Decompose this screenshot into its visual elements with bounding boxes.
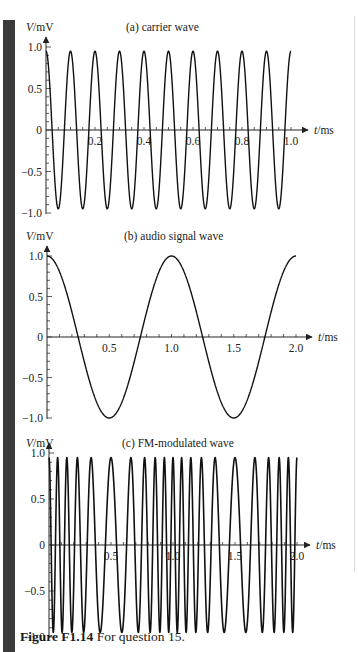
x-tick-label: 0.4 — [137, 135, 152, 147]
x-tick-label: 0.5 — [102, 342, 117, 354]
figure-number: Figure F1.14 — [20, 629, 93, 644]
x-axis-label: t/ms — [314, 124, 334, 136]
figure-plots: (a) carrier waveV/mVt/ms1.00.50−0.5−1.00… — [0, 0, 358, 652]
y-tick-label: −1.0 — [22, 412, 43, 424]
y-tick-label: 1.0 — [28, 41, 43, 53]
chart-title: (a) carrier wave — [126, 21, 199, 34]
chart-carrier-wave: (a) carrier waveV/mVt/ms1.00.50−0.5−1.00… — [21, 21, 334, 219]
y-tick-label: 0 — [39, 539, 45, 551]
chart-title: (b) audio signal wave — [124, 230, 223, 243]
y-tick-label: −0.5 — [22, 372, 43, 384]
x-tick-label: 0.2 — [88, 135, 103, 147]
x-tick-label: 1.5 — [227, 342, 242, 354]
y-tick-label: −0.5 — [21, 166, 42, 178]
y-tick-label: 0 — [37, 331, 43, 343]
y-tick-label: 1.0 — [31, 447, 46, 459]
chart-fm-modulated-wave: (c) FM-modulated waveV/mVt/ms1.00.50−0.5… — [24, 437, 336, 643]
y-tick-label: 0.5 — [29, 291, 44, 303]
x-tick-label: 0.8 — [235, 135, 250, 147]
y-tick-label: 1.0 — [29, 250, 44, 262]
x-tick-label: 1.0 — [164, 342, 179, 354]
x-axis-label: t/ms — [318, 331, 338, 343]
figure-caption: Figure F1.14 For question 15. — [20, 629, 185, 645]
x-tick-label: 0.6 — [186, 135, 201, 147]
y-tick-label: 0.5 — [28, 83, 43, 95]
y-tick-label: −1.0 — [21, 207, 42, 219]
y-axis-label: V/mV — [26, 21, 54, 33]
x-tick-label: 2.0 — [290, 550, 305, 562]
y-tick-label: 0 — [36, 124, 42, 136]
x-tick-label: 2.0 — [289, 342, 304, 354]
x-tick-label: 1.0 — [166, 550, 181, 562]
x-axis-label: t/ms — [316, 539, 336, 551]
y-axis-label: V/mV — [26, 230, 54, 242]
figure-caption-text: For question 15. — [93, 629, 185, 644]
x-tick-label: 1.0 — [284, 135, 299, 147]
y-tick-label: −0.5 — [24, 585, 45, 597]
chart-title: (c) FM-modulated wave — [122, 437, 234, 450]
chart-audio-signal-wave: (b) audio signal waveV/mVt/ms1.00.50−0.5… — [22, 230, 338, 424]
y-tick-label: 0.5 — [31, 493, 46, 505]
